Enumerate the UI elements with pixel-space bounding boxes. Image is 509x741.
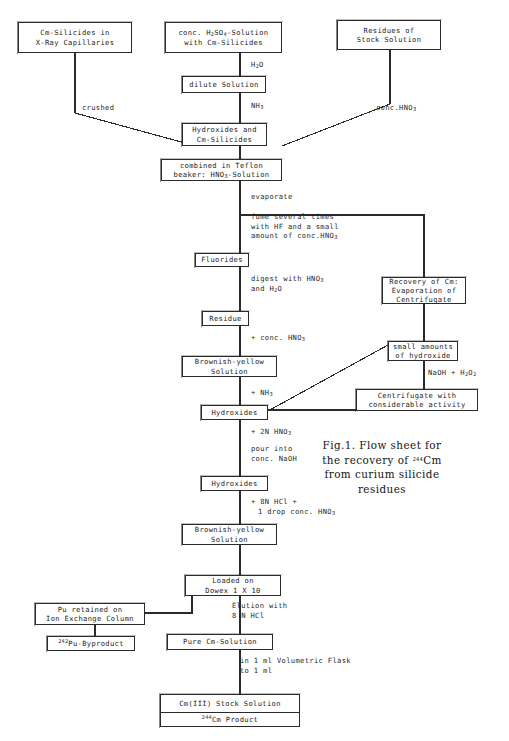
pu-mass-number: 242 <box>58 638 68 644</box>
box-recovery-of-cm: Recovery of Cm: Evaporation of Centrifug… <box>382 277 466 304</box>
box-loaded-on-dowex: Loaded on Dowex 1 X 10 <box>185 575 281 596</box>
flow-sheet-figure: Cm-Silicides in X-Ray Capillaries conc. … <box>0 0 509 741</box>
box-line: Ion Exchange Column <box>46 614 134 623</box>
label-plus-conc-hno3: + conc. HNO3 <box>251 333 305 343</box>
label-fume-step: fume several times with HF and a small a… <box>251 212 339 241</box>
box-line: Fluorides <box>201 255 243 264</box>
cm-mass-number: 244 <box>202 714 212 720</box>
label-nh3-top: NH3 <box>251 101 264 111</box>
box-line: Cm-Silicides in <box>40 28 109 37</box>
box-dilute-solution: dilute Solution <box>182 76 266 93</box>
label-line: digest with HNO3 <box>251 274 324 284</box>
label-line: to 1 ml <box>240 666 351 676</box>
label-h2o: H2O <box>251 60 264 70</box>
box-line: 242Pu-Byproduct <box>58 639 124 648</box>
box-residue: Residue <box>202 311 249 326</box>
box-line: Centrifugate <box>396 295 451 304</box>
box-pu-byproduct: 242Pu-Byproduct <box>47 636 135 651</box>
box-pu-retained: Pu retained on Ion Exchange Column <box>35 603 145 625</box>
box-line: Hydroxides <box>211 479 257 488</box>
box-fluorides: Fluorides <box>195 253 249 267</box>
box-line: Brownish-yellow <box>195 357 264 366</box>
box-line: Brownish-yellow <box>195 525 264 534</box>
box-line: Dowex 1 X 10 <box>205 586 260 595</box>
label-elution: Elution with 8 N HCl <box>232 601 287 620</box>
box-line: Recovery of Cm: <box>389 277 458 286</box>
caption-line: from curium silicide <box>279 467 485 482</box>
box-line: Cm-Silicides <box>197 135 252 144</box>
label-volumetric-flask: in 1 ml Volumetric Flask to 1 ml <box>240 656 351 675</box>
box-line: Hydroxides and <box>192 125 257 134</box>
label-line: amount of conc.HNO3 <box>251 231 339 241</box>
label-line: + 8N HCl + <box>251 497 335 507</box>
figure-caption: Fig.1. Flow sheet for the recovery of 24… <box>279 438 485 496</box>
caption-line: Fig.1. Flow sheet for <box>279 438 485 453</box>
box-line: of hydroxide <box>395 351 450 360</box>
box-line: Residues of <box>364 26 415 35</box>
box-brownish-yellow-solution-2: Brownish-yellow Solution <box>182 524 277 545</box>
box-brownish-yellow-solution-1: Brownish-yellow Solution <box>182 356 277 377</box>
box-small-amounts-hydroxide: small amounts of hydroxide <box>388 341 458 361</box>
box-line: Stock Solution <box>357 35 422 44</box>
label-plus-nh3: + NH3 <box>251 388 273 398</box>
box-cm-stock-solution-group: Cm(III) Stock Solution 244Cm Product <box>160 694 300 727</box>
label-line: fume several times <box>251 212 339 222</box>
box-line: Pu retained on <box>58 605 123 614</box>
box-line: Residue <box>209 314 241 323</box>
box-cm-silicides-capillaries: Cm-Silicides in X-Ray Capillaries <box>18 22 132 53</box>
box-line: Pure Cm-Solution <box>183 637 257 646</box>
box-line: Solution <box>211 367 248 376</box>
box-residues-stock-solution: Residues of Stock Solution <box>337 20 441 50</box>
label-conc-hno3-right: conc.HNO3 <box>376 103 416 113</box>
label-line: and H2O <box>251 284 324 294</box>
box-cm-product: 244Cm Product <box>161 712 299 727</box>
box-line: Loaded on <box>212 576 254 585</box>
box-line: Solution <box>211 535 248 544</box>
caption-line: the recovery of 244Cm <box>279 453 485 468</box>
label-naoh-h2o2: NaOH + H2O2 <box>428 368 476 378</box>
label-digest-step: digest with HNO3 and H2O <box>251 274 324 293</box>
caption-line: residues <box>279 482 485 497</box>
label-line: Elution with <box>232 601 287 611</box>
box-line: Hydroxides <box>211 408 257 417</box>
box-line: beaker: HNO3-Solution <box>174 170 270 179</box>
box-line: conc. H2SO4-Solution <box>179 28 269 37</box>
box-hydroxides-and-cm-silicides: Hydroxides and Cm-Silicides <box>182 123 267 146</box>
box-combined-teflon-beaker: combined in Teflon beaker: HNO3-Solution <box>161 159 282 181</box>
label-plus-8n-hcl: + 8N HCl + 1 drop conc. HNO3 <box>251 497 335 516</box>
label-line: 8 N HCl <box>232 611 287 621</box>
label-line: in 1 ml Volumetric Flask <box>240 656 351 666</box>
label-line: 1 drop conc. HNO3 <box>251 507 335 517</box>
box-hydroxides-2: Hydroxides <box>201 476 268 491</box>
box-line: dilute Solution <box>189 80 258 89</box>
box-line: X-Ray Capillaries <box>36 38 115 47</box>
label-line: with HF and a small <box>251 222 339 232</box>
box-hydroxides-1: Hydroxides <box>201 405 268 420</box>
box-line: Centrifugate with <box>378 391 457 400</box>
box-line: combined in Teflon <box>180 161 263 170</box>
box-pure-cm-solution: Pure Cm-Solution <box>167 634 273 650</box>
box-centrifugate-activity: Centrifugate with considerable activity <box>356 389 478 411</box>
box-line: small amounts <box>393 342 453 351</box>
box-line: considerable activity <box>368 400 465 409</box>
label-plus-2n-hno3: + 2N HNO3 <box>251 427 291 437</box>
label-evaporate: evaporate <box>251 192 293 202</box>
box-line: Evaporation of <box>392 286 457 295</box>
box-conc-h2so4-solution: conc. H2SO4-Solution with Cm-Silicides <box>165 22 282 53</box>
box-cm-stock-solution: Cm(III) Stock Solution <box>161 695 299 712</box>
label-crushed: crushed <box>82 103 114 113</box>
box-line: with Cm-Silicides <box>184 38 263 47</box>
